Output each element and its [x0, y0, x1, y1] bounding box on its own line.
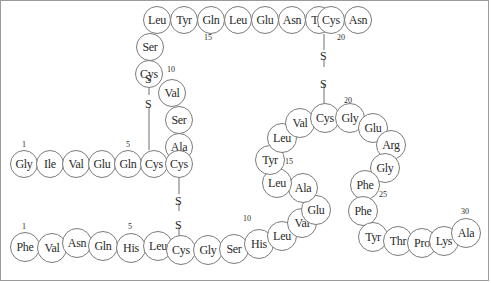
residue-circle: Leu [143, 6, 171, 34]
sulfur-atom-label: S [175, 219, 182, 231]
residue-circle: Cys [165, 150, 193, 178]
residue-number: 1 [22, 140, 26, 149]
sulfur-atom-label: S [145, 73, 152, 85]
residue-circle: Cys [166, 235, 196, 265]
residue-circle: Tyr [170, 6, 198, 34]
residue-circle: Asn [344, 6, 372, 34]
residue-circle: Ile [36, 150, 64, 178]
residue-circle: Glu [88, 150, 116, 178]
residue-number: 15 [204, 33, 212, 42]
residue-number: 15 [285, 157, 293, 166]
residue-circle: Ala [288, 173, 318, 203]
residue-circle: Phe [10, 232, 40, 262]
residue-circle: Ser [165, 106, 193, 134]
residue-circle: Cys [317, 6, 345, 34]
sulfur-atom-label: S [320, 50, 327, 62]
sulfur-atom-label: S [175, 195, 182, 207]
sulfur-atom-label: S [145, 98, 152, 110]
residue-number: 30 [461, 207, 469, 216]
residue-circle: Gln [197, 6, 225, 34]
residue-circle: Gly [10, 150, 38, 178]
residue-number: 5 [126, 140, 130, 149]
residue-circle: Ala [451, 218, 481, 248]
residue-number: 20 [337, 33, 345, 42]
insulin-structure-diagram: LeuTyrGlnLeuGluAsnTyrCysAsnSerCysValSerA… [0, 0, 491, 283]
residue-number: 1 [22, 222, 26, 231]
residue-circle: Ser [136, 33, 164, 61]
residue-number: 10 [167, 65, 175, 74]
residue-circle: Val [158, 79, 186, 107]
residue-number: 20 [344, 96, 352, 105]
residue-circle: His [116, 233, 146, 263]
residue-number: 10 [243, 214, 251, 223]
residue-circle: Leu [224, 6, 252, 34]
residue-number: 25 [379, 190, 387, 199]
residue-circle: Gln [114, 150, 142, 178]
residue-circle: Glu [251, 6, 279, 34]
residue-circle: Val [62, 150, 90, 178]
residue-number: 5 [128, 222, 132, 231]
sulfur-atom-label: S [320, 78, 327, 90]
residue-circle: Asn [278, 6, 306, 34]
residue-circle: Cys [140, 150, 168, 178]
residue-circle: Gln [88, 231, 118, 261]
